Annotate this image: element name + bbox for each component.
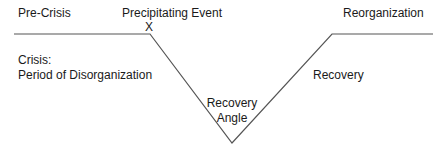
recovery-angle-label-line1: Recovery (202, 96, 262, 110)
precipitating-event-label: Precipitating Event (122, 6, 222, 20)
crisis-title-label: Crisis: (18, 53, 51, 67)
reorganization-label: Reorganization (343, 6, 424, 20)
pre-crisis-label: Pre-Crisis (18, 6, 71, 20)
crisis-subtitle-label: Period of Disorganization (18, 68, 152, 82)
event-marker: X (145, 20, 153, 34)
crisis-line (14, 34, 433, 143)
recovery-label: Recovery (313, 68, 364, 82)
recovery-angle-label-line2: Angle (202, 111, 262, 125)
